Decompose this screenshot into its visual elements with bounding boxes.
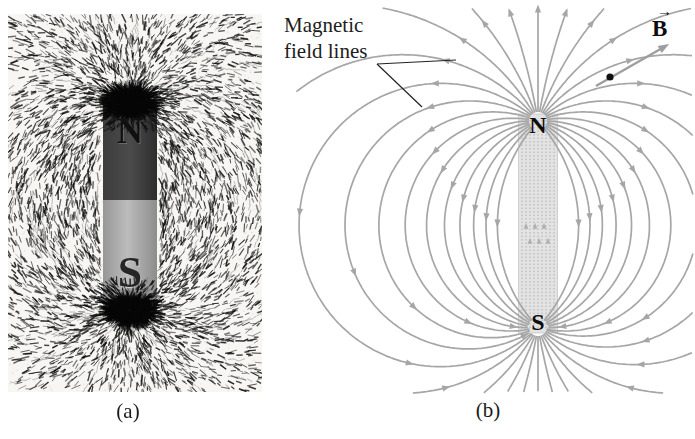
field-arrowhead: [451, 181, 457, 190]
field-line: [543, 9, 692, 114]
field-arrowhead: [440, 165, 447, 173]
field-arrowhead: [641, 126, 649, 133]
field-arrowhead: [494, 219, 500, 227]
field-arrowhead: [626, 386, 635, 392]
field-point-dot: [606, 73, 613, 80]
field-arrowhead: [598, 205, 604, 213]
field-line: [545, 83, 692, 115]
field-arrowhead: [484, 213, 490, 221]
field-arrowhead: [350, 268, 356, 277]
b-vector-label: →B: [652, 16, 667, 42]
vector-arrow-glyph: →: [657, 3, 672, 20]
magnetic-field-lines-annotation: Magnetic field lines: [284, 12, 390, 64]
field-line: [547, 121, 649, 328]
field-arrowhead: [609, 194, 615, 203]
field-line: [524, 336, 537, 392]
photo-south-pole-label: S: [118, 251, 142, 295]
field-arrowhead: [508, 8, 514, 17]
field-arrowhead: [431, 80, 439, 86]
field-arrowhead: [641, 103, 650, 109]
field-arrowhead: [604, 318, 613, 324]
caption-a: (a): [116, 399, 139, 424]
field-line: [345, 101, 530, 349]
field-arrowhead: [427, 126, 435, 133]
field-line: [545, 333, 692, 365]
field-line-diagram: Magnetic field lines N S →B: [280, 0, 695, 405]
field-arrowhead: [461, 194, 467, 203]
field-arrowhead: [586, 213, 592, 221]
field-arrowhead: [472, 205, 478, 213]
field-arrowhead: [442, 58, 451, 64]
iron-filings-photo: [8, 14, 262, 392]
field-arrowhead: [642, 313, 651, 320]
field-arrowhead: [575, 219, 581, 227]
field-arrowhead: [642, 337, 651, 343]
field-arrowhead: [609, 37, 617, 44]
b-vector-arrowhead: [658, 44, 670, 53]
field-arrowhead: [636, 361, 644, 367]
field-arrowhead: [459, 37, 467, 44]
b-vector-arrow: [596, 47, 664, 86]
field-line: [299, 83, 531, 366]
field-arrowhead: [629, 165, 636, 173]
photo-north-pole-label: N: [117, 113, 143, 149]
field-arrowhead: [562, 8, 568, 17]
diagram-south-pole-label: S: [531, 309, 544, 336]
field-line: [379, 112, 530, 338]
diagram-north-pole-label: N: [529, 112, 546, 139]
caption-b: (b): [476, 398, 501, 423]
field-arrowhead: [619, 181, 625, 190]
field-arrowhead: [442, 386, 451, 392]
field-line: [540, 336, 553, 392]
field-arrowhead: [535, 4, 541, 12]
field-arrowhead: [464, 318, 473, 324]
magnet-bar: [519, 114, 558, 333]
textbook-figure: N S (a) Magnetic field lines N S →B (b): [0, 0, 695, 439]
field-arrowhead: [426, 103, 435, 109]
field-arrowhead: [637, 80, 645, 86]
field-line: [427, 121, 529, 328]
